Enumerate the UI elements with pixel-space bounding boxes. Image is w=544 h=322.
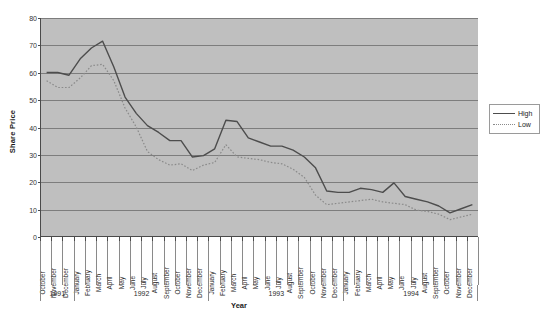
x-axis-year-label: 1991 [40,285,74,301]
x-axis-month-cell: December [197,237,208,285]
x-axis-tick-mark [152,237,153,241]
x-axis-tick-mark [141,237,142,241]
x-axis-tick-mark [119,237,120,241]
x-axis-year-label: 1992 [74,285,209,301]
x-axis-tick-mark [310,237,311,241]
y-axis-tick-label: 30 [29,151,37,158]
x-axis-tick-mark [242,237,243,241]
x-axis-month-cell: April [107,237,118,285]
x-axis-tick-mark [186,237,187,241]
x-axis-month-cell: January [343,237,354,285]
x-axis-title: Year [0,301,478,310]
x-axis-tick-mark [208,237,209,241]
x-axis-tick-mark [354,237,355,241]
x-axis-tick-mark [231,237,232,241]
y-axis-tick-label: 50 [29,97,37,104]
x-axis-tick-mark [377,237,378,241]
x-axis-tick-mark [74,237,75,241]
x-axis-year-label: 1993 [208,285,343,301]
x-axis-tick-mark [444,237,445,241]
x-axis-tick-mark [332,237,333,241]
x-axis-tick-mark [321,237,322,241]
y-axis-tick-label: 10 [29,206,37,213]
x-axis-month-cell: November [51,237,62,285]
x-axis-tick-mark [287,237,288,241]
x-axis-month-cell: February [354,237,365,285]
x-axis-tick-mark [40,237,41,241]
y-axis-tick-label: 40 [29,124,37,131]
x-axis-tick-mark [467,237,468,241]
x-axis-tick-mark [220,237,221,241]
x-axis-month-cell: January [208,237,219,285]
x-axis-tick-mark [422,237,423,241]
y-axis-title: Share Price [6,96,20,166]
x-axis-tick-mark [433,237,434,241]
x-axis-tick-mark [85,237,86,241]
x-axis-month-cell: October [444,237,455,285]
x-axis-tick-mark [96,237,97,241]
x-axis-month-labels: OctoberNovemberDecemberJanuaryFebruaryMa… [40,237,478,285]
x-axis-month-cell: May [253,237,264,285]
x-axis-tick-mark [51,237,52,241]
y-axis-tick-label: 60 [29,69,37,76]
x-axis-month-cell: December [467,237,478,285]
x-axis-tick-mark [456,237,457,241]
x-axis-tick-mark [276,237,277,241]
series-layer [41,18,478,236]
x-axis-tick-mark [265,237,266,241]
x-axis-month-cell: December [62,237,73,285]
x-axis-month-cell: June [399,237,410,285]
legend-item-low: Low [493,119,536,130]
x-axis-year-label: 1994 [343,285,478,301]
x-axis-month-cell: September [298,237,309,285]
x-axis-tick-mark [253,237,254,241]
series-line-high [47,41,473,213]
y-axis-tick-label: 70 [29,42,37,49]
x-axis-tick-mark [298,237,299,241]
x-axis-tick-mark [62,237,63,241]
x-axis-month-cell: August [152,237,163,285]
y-axis-title-text: Share Price [9,109,18,152]
x-axis-tick-mark [343,237,344,241]
x-axis-tick-mark [366,237,367,241]
share-price-line-chart: Share Price 01020304050607080 OctoberNov… [0,0,544,322]
chart-legend: High Low [489,104,540,134]
y-axis-tick-label: 80 [29,15,37,22]
x-axis-year-band: 1991199219931994 [40,285,478,301]
x-axis-tick-mark [107,237,108,241]
legend-item-high: High [493,108,536,119]
x-axis-tick-mark [197,237,198,241]
x-axis-tick-mark [164,237,165,241]
x-axis-end-divider [478,237,479,285]
x-axis-tick-mark [399,237,400,241]
legend-line-high-icon [493,110,515,117]
y-axis-tick-label: 0 [33,234,37,241]
legend-label-high: High [515,110,532,117]
y-axis-tick-label: 20 [29,179,37,186]
legend-line-low-icon [493,121,515,128]
x-axis-tick-mark [175,237,176,241]
plot-area: 01020304050607080 [40,18,478,237]
legend-label-low: Low [515,121,531,128]
x-axis-tick-mark [130,237,131,241]
x-axis-tick-mark [388,237,389,241]
x-axis-tick-mark [411,237,412,241]
